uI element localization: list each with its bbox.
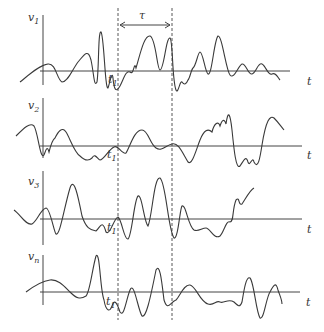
signal-v3 bbox=[14, 171, 302, 245]
signal-v1 bbox=[20, 15, 290, 91]
tau-arrow bbox=[120, 22, 170, 28]
label-v2: v2 bbox=[28, 100, 39, 114]
signal-v2 bbox=[16, 98, 302, 167]
label-t1-v3: t1 bbox=[107, 222, 117, 236]
label-v3: v3 bbox=[28, 176, 39, 190]
label-vn: vn bbox=[28, 251, 39, 265]
label-t-axis-vn: t bbox=[306, 297, 310, 308]
ensemble-diagram bbox=[0, 0, 324, 332]
label-t-axis-v1: t bbox=[307, 76, 311, 87]
label-t-axis-v2: t bbox=[307, 150, 311, 161]
label-v1: v1 bbox=[28, 12, 39, 26]
signal-vn bbox=[26, 255, 300, 318]
label-t-axis-v3: t bbox=[307, 224, 311, 235]
label-t1-vn: t1 bbox=[106, 296, 116, 310]
label-t1-v1: t1 bbox=[108, 74, 118, 88]
label-t1-v2: t1 bbox=[107, 149, 117, 163]
label-tau: τ bbox=[139, 10, 145, 21]
